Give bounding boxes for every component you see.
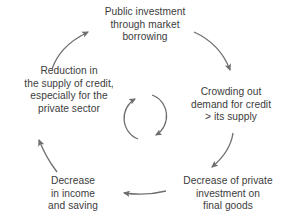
node-line: especially for the — [4, 90, 134, 103]
node-line: private sector — [4, 103, 134, 116]
node-decrease-private-investment: Decrease of private investment on final … — [170, 175, 286, 213]
node-line: Decrease — [26, 175, 120, 188]
edge-decpriv-to-decincome — [124, 191, 166, 194]
node-line: Public investment — [84, 6, 206, 19]
diagram-canvas: Public investment through market borrowi… — [0, 0, 287, 223]
node-decrease-income: Decrease in income and saving — [26, 175, 120, 213]
node-line: Crowding out — [176, 86, 286, 99]
node-line: Reduction in — [4, 65, 134, 78]
node-line: borrowing — [84, 31, 206, 44]
node-line: in income — [26, 188, 120, 201]
node-line: demand for credit — [176, 99, 286, 112]
node-line: final goods — [170, 200, 286, 213]
node-line: through market — [84, 19, 206, 32]
node-line: the supply of credit, — [4, 78, 134, 91]
node-crowding-out: Crowding out demand for credit > its sup… — [176, 86, 286, 124]
node-line: and saving — [26, 200, 120, 213]
node-line: > its supply — [176, 111, 286, 124]
edge-reduct-to-public — [52, 32, 88, 69]
edge-crowding-to-decpriv — [212, 133, 233, 167]
node-line: investment on — [170, 188, 286, 201]
node-reduction-supply-credit: Reduction in the supply of credit, espec… — [4, 65, 134, 115]
edge-decincome-to-reduct — [39, 140, 57, 172]
node-line: Decrease of private — [170, 175, 286, 188]
node-public-investment: Public investment through market borrowi… — [84, 6, 206, 44]
